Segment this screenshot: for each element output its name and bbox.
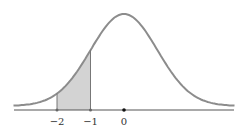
tick-label: −1 [83,116,98,127]
tick-marker [122,108,126,112]
tick-label: 0 [121,116,127,127]
tick-marker [89,109,92,112]
x-axis-ticks: −2−10 [50,108,128,127]
tick-label: −2 [50,116,65,127]
normal-distribution-chart: −2−10 [0,0,246,134]
tick-marker [56,109,59,112]
normal-curve [14,14,235,106]
